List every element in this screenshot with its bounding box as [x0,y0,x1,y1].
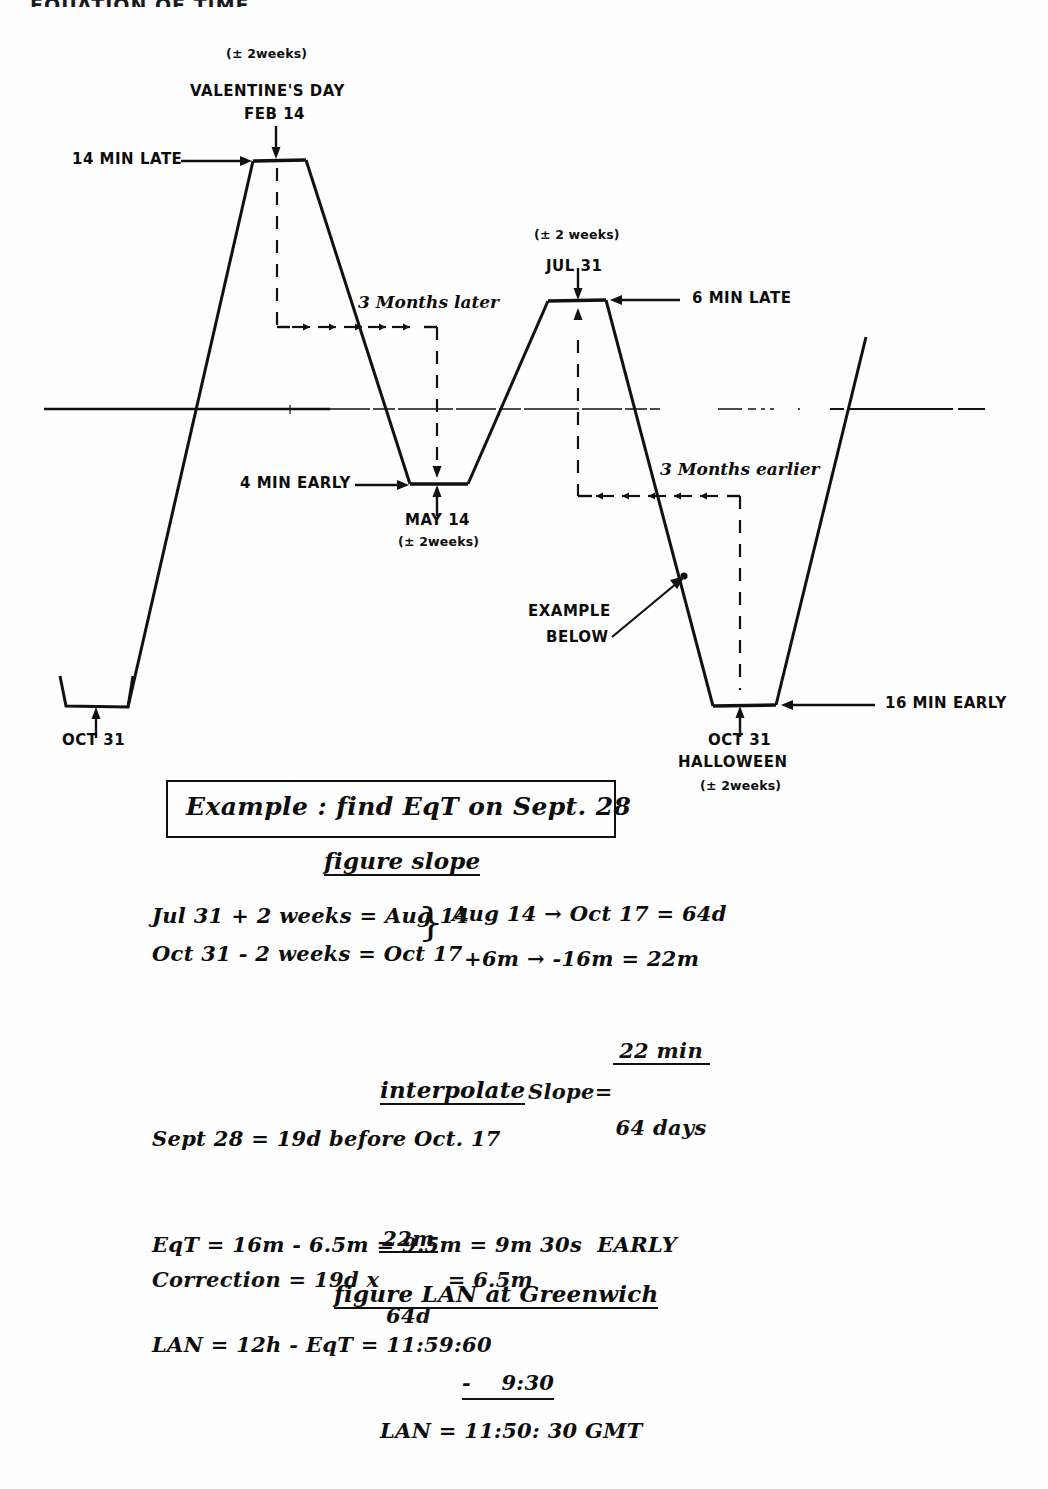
example-below-line2: BELOW [546,630,609,646]
jul31-tolerance-label: (± 2 weeks) [534,228,620,241]
sixteen-min-early-label: 16 MIN EARLY [885,696,1007,712]
heading-figure-lan: figure LAN at Greenwich [334,1282,658,1309]
slope-denominator: 64 days [613,1115,710,1140]
oct31-halloween-date-label: OCT 31 [708,733,771,749]
slope-right-line-1: Aug 14 → Oct 17 = 64d [452,903,727,925]
oct31-left-date-label: OCT 31 [62,733,125,749]
example-below-line1: EXAMPLE [528,604,611,620]
example-box-text: Example : find EqT on Sept. 28 [186,794,631,820]
eqt-curve [60,160,866,707]
slope-equation-label: Slope= [528,1079,613,1104]
page-title: EQUATION OF TIME [30,0,250,7]
six-min-late-label: 6 MIN LATE [692,291,791,307]
halloween-label: HALLOWEEN [678,755,788,771]
lan-line-1: LAN = 12h - EqT = 11:59:60 [152,1334,492,1356]
may14-date-label: MAY 14 [405,513,470,529]
three-months-earlier-label: 3 Months earlier [660,461,819,479]
slope-right-line-2: +6m → -16m = 22m [464,948,699,970]
heading-figure-slope: figure slope [324,849,480,876]
interpolate-line-1: Sept 28 = 19d before Oct. 17 [152,1128,501,1150]
may14-tolerance-label: (± 2weeks) [398,535,479,548]
four-min-early-label: 4 MIN EARLY [240,476,351,492]
zero-axis-line [44,405,985,414]
heading-interpolate: interpolate [380,1078,525,1105]
slope-line-2: Oct 31 - 2 weeks = Oct 17 [152,943,463,965]
valentines-day-label: VALENTINE'S DAY [190,84,345,100]
slope-equation: Slope= 22 min 64 days [528,990,710,1192]
lan-line-3: LAN = 11:50: 30 GMT [380,1420,643,1442]
halloween-tolerance-label: (± 2weeks) [700,779,781,792]
feb14-tolerance-label: (± 2weeks) [226,47,307,60]
slope-fraction: 22 min 64 days [613,988,710,1190]
lan-line-2: - 9:30 [462,1372,554,1400]
jul31-date-label: JUL 31 [546,259,602,275]
feb14-date-label: FEB 14 [244,107,305,123]
slope-brace: } [418,900,443,942]
fourteen-min-late-label: 14 MIN LATE [72,152,182,168]
example-box: Example : find EqT on Sept. 28 [166,780,616,838]
three-months-later-label: 3 Months later [358,294,499,312]
diagram-page: EQUATION OF TIME [0,0,1048,1489]
callout-arrows [92,126,876,738]
slope-numerator: 22 min [613,1038,710,1065]
three-months-later-measure [277,168,442,478]
eqt-result-line: EqT = 16m - 6.5m = 9.5m = 9m 30s EARLY [152,1234,677,1256]
